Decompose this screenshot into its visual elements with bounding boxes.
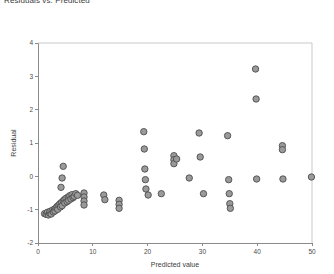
data-point <box>145 192 151 198</box>
x-axis-title: Predicted value <box>151 261 199 268</box>
y-tick-label: -1 <box>27 206 33 213</box>
y-tick-label: 1 <box>29 139 33 146</box>
data-point <box>253 96 259 102</box>
y-tick-label: 2 <box>29 106 33 113</box>
data-point <box>74 192 80 198</box>
data-point <box>279 146 285 152</box>
data-point <box>224 132 230 138</box>
x-tick-label: 0 <box>36 248 40 255</box>
x-tick-label: 40 <box>254 248 262 255</box>
y-axis-title: Residual <box>10 129 17 157</box>
data-point <box>142 176 148 182</box>
data-point <box>196 130 202 136</box>
data-point <box>81 202 87 208</box>
data-point <box>197 154 203 160</box>
data-point <box>226 176 232 182</box>
data-point <box>227 205 233 211</box>
x-tick-label: 10 <box>89 248 97 255</box>
y-tick-label: 4 <box>29 39 33 46</box>
data-point <box>308 174 314 180</box>
data-point <box>59 175 65 181</box>
x-tick-label: 50 <box>308 248 316 255</box>
data-point <box>60 163 66 169</box>
data-point <box>141 128 147 134</box>
data-point <box>200 190 206 196</box>
data-point <box>253 176 259 182</box>
data-point <box>158 190 164 196</box>
data-point <box>116 205 122 211</box>
residual-plot: Residuals vs. Predicted -2-1012340102030… <box>0 0 334 274</box>
y-tick-label: 3 <box>29 73 33 80</box>
data-point <box>173 156 179 162</box>
data-point <box>142 166 148 172</box>
y-tick-label: 0 <box>29 173 33 180</box>
y-tick-label: -2 <box>27 239 33 246</box>
x-tick-label: 20 <box>144 248 152 255</box>
data-point <box>186 175 192 181</box>
data-point <box>141 146 147 152</box>
data-point <box>226 190 232 196</box>
scatter-plot-canvas: -2-10123401020304050Predicted valueResid… <box>0 0 334 274</box>
data-point <box>280 176 286 182</box>
data-point <box>143 186 149 192</box>
data-point <box>58 184 64 190</box>
data-point <box>102 196 108 202</box>
data-point <box>252 66 258 72</box>
x-tick-label: 30 <box>199 248 207 255</box>
